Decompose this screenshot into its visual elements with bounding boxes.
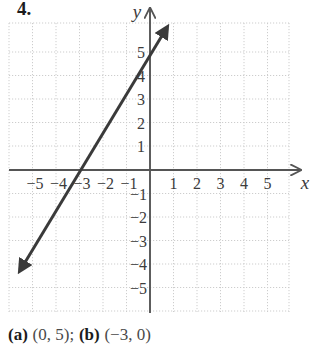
coordinate-plane-chart: y x −5 −4 −3 −2 −1 1 2 3 4 5 5 4 3 2 <box>0 0 320 320</box>
svg-text:−5: −5 <box>26 175 43 192</box>
answer-part-a-value: (0, 5); <box>33 325 75 344</box>
svg-text:−4: −4 <box>130 256 147 273</box>
svg-text:5: 5 <box>264 175 272 192</box>
answer-part-b-label: (b) <box>79 325 100 344</box>
grid-lines <box>9 23 289 312</box>
svg-text:2: 2 <box>193 175 201 192</box>
svg-text:−2: −2 <box>97 175 114 192</box>
chart-svg: y x −5 −4 −3 −2 −1 1 2 3 4 5 5 4 3 2 <box>0 0 320 320</box>
figure-root: 4. <box>0 0 320 355</box>
y-axis-label: y <box>131 1 142 22</box>
x-axis-label: x <box>300 172 310 193</box>
svg-text:4: 4 <box>240 175 248 192</box>
svg-text:−3: −3 <box>130 233 147 250</box>
x-tick-labels: −5 −4 −3 −2 −1 1 2 3 4 5 <box>26 175 271 192</box>
svg-text:−4: −4 <box>50 175 67 192</box>
svg-text:−2: −2 <box>130 209 147 226</box>
answer-caption: (a) (0, 5); (b) (−3, 0) <box>8 325 313 345</box>
answer-part-a-label: (a) <box>8 325 28 344</box>
svg-text:5: 5 <box>137 44 145 61</box>
svg-text:−3: −3 <box>73 175 90 192</box>
answer-part-b-value: (−3, 0) <box>104 325 150 344</box>
svg-text:3: 3 <box>137 91 145 108</box>
svg-text:1: 1 <box>137 138 145 155</box>
svg-text:3: 3 <box>217 175 225 192</box>
svg-text:−1: −1 <box>130 186 147 203</box>
svg-text:4: 4 <box>137 68 145 85</box>
svg-text:−5: −5 <box>130 280 147 297</box>
svg-text:1: 1 <box>170 175 178 192</box>
svg-text:2: 2 <box>137 115 145 132</box>
